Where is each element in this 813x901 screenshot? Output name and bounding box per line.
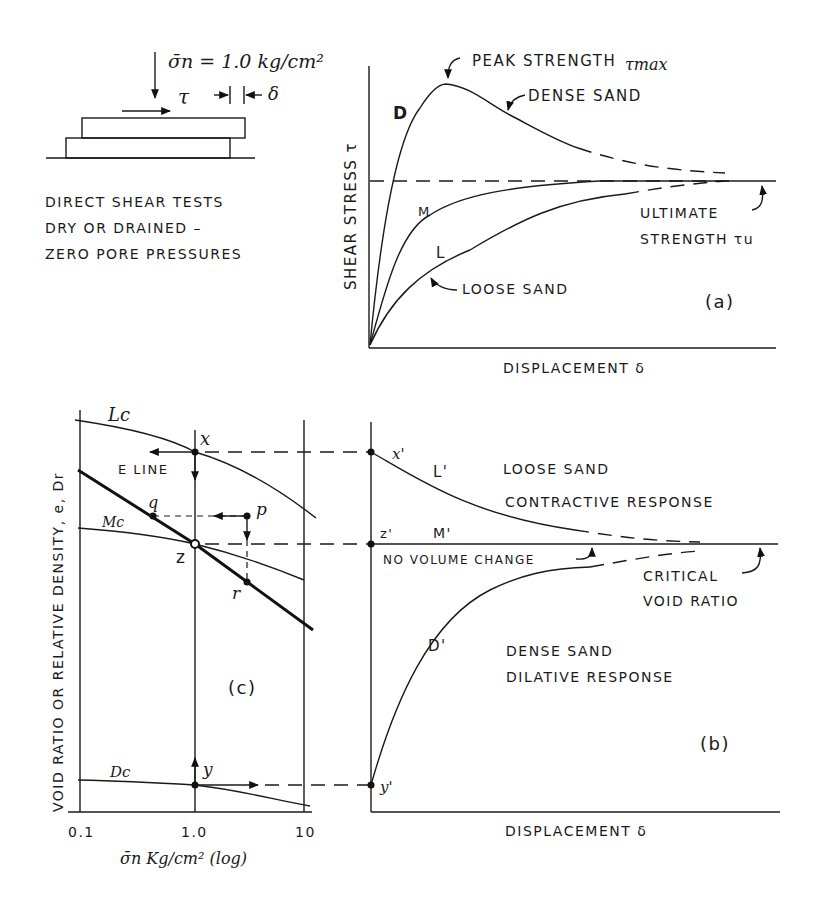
b-critical-label-2: VOID RATIO: [643, 593, 739, 609]
b-dense-label-1: DENSE SAND: [506, 643, 613, 659]
b-label-d: D': [428, 637, 447, 655]
a-curve-dense: [370, 84, 578, 345]
panel-a: SHEAR STRESS τ DISPLACEMENT δ D M L PEAK…: [342, 52, 776, 376]
panel-c: VOID RATIO OR RELATIVE DENSITY, e, Dr 0.…: [50, 404, 316, 868]
caption-line-2: DRY OR DRAINED –: [45, 220, 202, 236]
b-dense-label-2: DILATIVE RESPONSE: [506, 669, 674, 685]
b-curve-l-dashed: [575, 530, 700, 542]
a-panel-label: (a): [705, 291, 735, 312]
a-ultimate-arrow: [752, 186, 763, 210]
c-tick-0.1: 0.1: [68, 824, 95, 840]
c-label-e-line: E LINE: [118, 462, 168, 477]
b-loose-label-1: LOOSE SAND: [503, 461, 610, 477]
a-dense-arrow: [508, 95, 525, 110]
a-curve-loose-dashed: [625, 181, 725, 194]
c-label-p: p: [256, 499, 267, 519]
a-label-l: L: [436, 244, 446, 262]
c-point-r: [244, 579, 251, 586]
b-curve-d-dashed: [590, 551, 700, 567]
c-label-dc: Dc: [109, 763, 131, 781]
a-loose-arrow: [431, 278, 457, 290]
c-point-y: [192, 782, 199, 789]
c-point-q: [150, 513, 157, 520]
c-x-axis-label: σ̄n Kg/cm² (log): [120, 849, 247, 868]
a-label-d: D: [393, 103, 409, 123]
a-dense-label: DENSE SAND: [528, 87, 642, 105]
a-curve-loose: [370, 194, 625, 345]
c-curve-mc: [78, 528, 304, 580]
b-point-x: [368, 449, 375, 456]
b-label-x: x': [392, 445, 405, 463]
b-panel-label: (b): [700, 733, 730, 754]
panel-b: DISPLACEMENT δ x' L' LOOSE SAND CONTRACT…: [368, 422, 781, 839]
c-tick-1.0: 1.0: [181, 824, 208, 840]
b-label-m: M': [433, 525, 452, 541]
caption-line-1: DIRECT SHEAR TESTS: [45, 194, 224, 210]
shear-label: τ: [178, 85, 190, 109]
a-loose-label: LOOSE SAND: [462, 281, 569, 297]
c-label-r: r: [232, 583, 241, 603]
c-label-mc: Mc: [101, 514, 124, 530]
c-label-x: x: [200, 428, 210, 449]
c-label-q: q: [148, 493, 158, 512]
c-point-p: [244, 513, 251, 520]
lower-shear-box: [66, 138, 230, 158]
caption-line-3: ZERO PORE PRESSURES: [45, 246, 242, 262]
b-label-y: y': [379, 778, 393, 796]
c-point-x: [192, 449, 199, 456]
a-peak-symbol: τmax: [625, 55, 668, 74]
a-y-axis-label: SHEAR STRESS τ: [342, 142, 360, 290]
a-ultimate-label-1: ULTIMATE: [640, 205, 719, 221]
c-label-lc: Lc: [107, 404, 130, 425]
a-peak-label: PEAK STRENGTH: [472, 52, 616, 70]
b-x-axis-label: DISPLACEMENT δ: [505, 823, 647, 839]
b-critical-arrow: [742, 548, 760, 573]
b-label-l: L': [433, 463, 448, 481]
upper-shear-box: [82, 118, 245, 138]
b-point-y: [368, 782, 375, 789]
a-label-m: M: [418, 204, 431, 219]
soil-mechanics-figure: σ̄n = 1.0 kg/cm² τ δ DIRECT SHEAR TESTS …: [0, 0, 813, 901]
c-label-y: y: [202, 759, 213, 779]
a-curve-dense-dashed: [578, 148, 725, 173]
b-no-volume-label: NO VOLUME CHANGE: [383, 553, 535, 567]
b-no-volume-arrow: [576, 548, 592, 559]
normal-stress-label: σ̄n = 1.0 kg/cm²: [168, 50, 324, 72]
b-loose-label-2: CONTRACTIVE RESPONSE: [505, 494, 714, 510]
c-point-z: [191, 540, 199, 548]
c-panel-label: (c): [228, 677, 256, 698]
direct-shear-inset: σ̄n = 1.0 kg/cm² τ δ DIRECT SHEAR TESTS …: [45, 50, 324, 262]
b-point-z: [368, 541, 375, 548]
a-ultimate-label-2: STRENGTH τu: [640, 231, 754, 247]
c-label-z: z: [176, 547, 186, 567]
disp-label: δ: [268, 83, 279, 104]
b-label-z: z': [380, 526, 393, 541]
c-y-axis-label: VOID RATIO OR RELATIVE DENSITY, e, Dr: [50, 472, 66, 812]
b-critical-label-1: CRITICAL: [643, 568, 718, 584]
a-peak-arrow: [448, 58, 460, 78]
c-tick-10: 10: [295, 824, 316, 840]
a-x-axis-label: DISPLACEMENT δ: [503, 360, 645, 376]
